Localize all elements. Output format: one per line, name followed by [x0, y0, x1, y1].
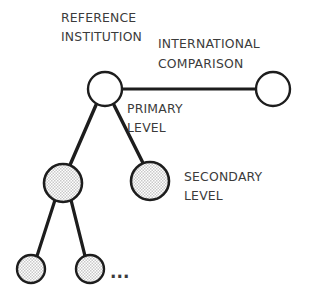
tree-diagram: REFERENCE INSTITUTION INTERNATIONAL COMP… — [0, 0, 310, 299]
diagram-canvas: REFERENCE INSTITUTION INTERNATIONAL COMP… — [0, 0, 310, 299]
label-reference-institution-line2: INSTITUTION — [61, 29, 142, 44]
label-international-comparison-line1: INTERNATIONAL — [158, 36, 260, 51]
node-reference-institution[interactable] — [88, 72, 122, 106]
label-group: REFERENCE INSTITUTION INTERNATIONAL COMP… — [61, 10, 263, 282]
edge-root-to-secondary-left — [70, 105, 96, 165]
node-secondary-right[interactable] — [131, 162, 169, 200]
label-primary-level-line1: PRIMARY — [127, 101, 183, 116]
node-tertiary-right[interactable] — [76, 255, 104, 283]
node-international-comparison[interactable] — [256, 72, 290, 106]
label-continuation-ellipsis: ... — [110, 262, 129, 282]
edge-secondary-to-tertiary-right — [71, 200, 85, 256]
label-primary-level-line2: LEVEL — [127, 120, 166, 135]
node-tertiary-left[interactable] — [17, 255, 45, 283]
label-secondary-level-line1: SECONDARY — [184, 169, 263, 184]
label-secondary-level-line2: LEVEL — [184, 188, 223, 203]
node-secondary-left[interactable] — [44, 164, 82, 202]
label-international-comparison-line2: COMPARISON — [158, 56, 243, 71]
edge-secondary-to-tertiary-left — [37, 200, 55, 256]
label-reference-institution-line1: REFERENCE — [61, 10, 136, 25]
